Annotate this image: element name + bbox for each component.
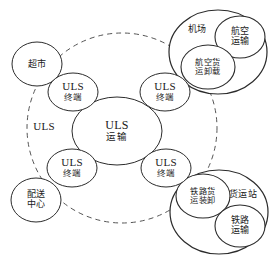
uls-terminal-sw-ellipse: [47, 149, 97, 187]
rail-transport-ellipse: [215, 205, 265, 247]
distribution-center-ellipse: [11, 178, 61, 222]
uls-terminal-se-ellipse: [141, 149, 191, 187]
uls-terminal-ne-ellipse: [140, 73, 190, 111]
diagram-canvas: ULS ULS 运输 ULS 终端 ULS 终端 ULS 终端 ULS 终端 超…: [0, 0, 277, 264]
diagram-shapes: [0, 0, 277, 264]
air-cargo-handling-ellipse: [181, 45, 235, 89]
uls-terminal-nw-ellipse: [48, 73, 98, 111]
